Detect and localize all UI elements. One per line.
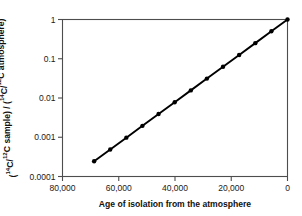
x-tick-label: 40,000 bbox=[162, 183, 188, 193]
chart-background bbox=[0, 0, 302, 216]
data-point bbox=[124, 135, 128, 139]
data-point bbox=[269, 29, 273, 33]
data-point bbox=[237, 53, 241, 57]
y-tick-label: 1 bbox=[51, 15, 56, 25]
y-tick-label: 0.001 bbox=[34, 132, 56, 142]
chart-figure: 10.10.010.0010.0001 80,00060,00040,00020… bbox=[0, 0, 302, 216]
data-point bbox=[221, 65, 225, 69]
y-tick-label: 0.0001 bbox=[30, 172, 56, 182]
radiocarbon-decay-chart: 10.10.010.0010.0001 80,00060,00040,00020… bbox=[0, 0, 302, 216]
data-point bbox=[205, 76, 209, 80]
x-tick-label: 60,000 bbox=[106, 183, 132, 193]
y-tick-label: 0.1 bbox=[44, 54, 56, 64]
data-point bbox=[140, 124, 144, 128]
data-point bbox=[285, 17, 289, 21]
x-tick-label: 20,000 bbox=[218, 183, 244, 193]
data-point bbox=[253, 41, 257, 45]
data-point bbox=[189, 88, 193, 92]
data-point bbox=[108, 147, 112, 151]
data-point bbox=[92, 159, 96, 163]
x-tick-label: 80,000 bbox=[50, 183, 76, 193]
x-tick-label: 0 bbox=[285, 183, 290, 193]
y-tick-label: 0.01 bbox=[39, 93, 56, 103]
x-axis-title: Age of isolation from the atmosphere bbox=[99, 199, 252, 209]
data-point bbox=[156, 112, 160, 116]
data-point bbox=[172, 100, 176, 104]
